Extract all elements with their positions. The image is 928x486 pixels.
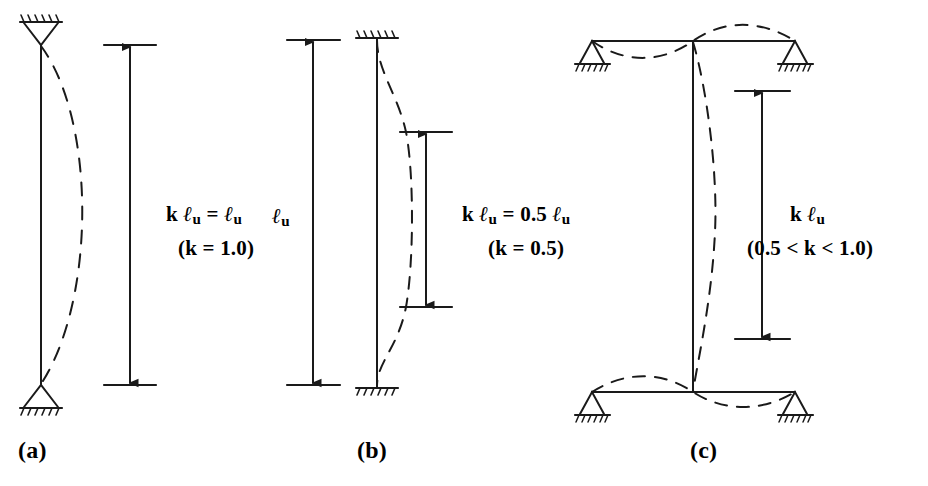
panel-c-sub: u xyxy=(817,211,826,227)
panel-a-k-lu-equation: k ℓu = ℓu xyxy=(166,199,242,234)
panel-b-lu-sub: u xyxy=(281,213,290,229)
support-pin-top-left-c xyxy=(575,41,610,71)
panel-a-k-value: (k = 1.0) xyxy=(178,233,254,263)
panel-a-sub-2: u xyxy=(233,211,242,227)
panel-tag-c: (c) xyxy=(690,437,717,464)
support-pin-bottom-a xyxy=(20,385,62,415)
panel-b-k-prefix: k xyxy=(462,202,474,226)
panel-a-ell-1: ℓ xyxy=(183,201,192,226)
dimension-lu-b xyxy=(287,40,340,385)
panel-c-k-range: (0.5 < k < 1.0) xyxy=(747,233,873,263)
panel-tag-b: (b) xyxy=(357,437,387,464)
support-fixed-top-b xyxy=(356,31,398,38)
support-pin-bottom-right-c xyxy=(778,392,813,422)
support-pin-bottom-left-c xyxy=(575,392,610,422)
panel-c-graphics xyxy=(575,25,813,422)
panel-c-k-prefix: k xyxy=(790,202,802,226)
panel-b-k-lu-equation: k ℓu = 0.5 ℓu xyxy=(462,199,570,234)
figure-canvas: k ℓu = ℓu (k = 1.0) ℓu k ℓu = 0.5 ℓu (k … xyxy=(0,0,928,486)
dimension-k-lu-c xyxy=(735,91,790,339)
dimension-k-lu-a xyxy=(104,45,156,385)
panel-b-graphics xyxy=(287,31,452,395)
support-pin-top-a xyxy=(20,15,62,45)
panel-c-k-lu-label: k ℓu xyxy=(790,199,825,234)
panel-tag-a: (a) xyxy=(18,437,47,464)
panel-b-lu-label: ℓu xyxy=(272,201,290,236)
panel-a-sub-1: u xyxy=(193,211,202,227)
panel-a-k-prefix: k xyxy=(166,202,178,226)
dimension-k-lu-b xyxy=(400,132,452,307)
support-pin-top-right-c xyxy=(778,41,813,71)
panel-b-ell-2: ℓ xyxy=(553,201,562,226)
panel-b-ell-1: ℓ xyxy=(479,201,488,226)
panel-c-ell: ℓ xyxy=(807,201,816,226)
buckled-shape-c xyxy=(693,42,715,391)
panel-b-sub-1: u xyxy=(489,211,498,227)
panel-b-equals-value: = 0.5 xyxy=(503,202,547,226)
buckled-shape-b xyxy=(377,40,412,386)
panel-a-equals: = xyxy=(207,202,219,226)
panel-b-k-value: (k = 0.5) xyxy=(488,233,564,263)
panel-b-sub-2: u xyxy=(562,211,571,227)
support-fixed-bottom-b xyxy=(356,388,398,395)
buckled-shape-a xyxy=(41,46,82,384)
panel-b-lu-ell: ℓ xyxy=(272,203,281,228)
panel-a-graphics xyxy=(20,15,156,415)
